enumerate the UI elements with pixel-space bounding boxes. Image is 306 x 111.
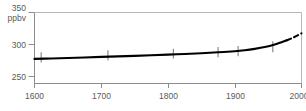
x-tick-label-1700: 1700 bbox=[92, 91, 111, 101]
data-line-projected bbox=[287, 33, 302, 40]
y-axis-ticks bbox=[29, 13, 35, 77]
y-tick-label-350: 350 bbox=[12, 3, 26, 13]
x-tick-label-1800: 1800 bbox=[159, 91, 178, 101]
data-line-observed bbox=[35, 40, 287, 59]
x-tick-label-1600: 1600 bbox=[25, 91, 44, 101]
y-tick-label-250: 250 bbox=[12, 72, 26, 82]
y-axis-unit-label: ppbv bbox=[8, 13, 27, 23]
x-axis-ticks bbox=[35, 84, 302, 89]
chart-figure: 350 ppbv 300 250 1600 1700 1800 1900 200… bbox=[0, 0, 306, 111]
y-tick-label-300: 300 bbox=[12, 40, 26, 50]
x-tick-label-2000: 2000 bbox=[290, 91, 306, 101]
x-tick-label-1900: 1900 bbox=[226, 91, 245, 101]
chart-plot-area: 350 ppbv 300 250 1600 1700 1800 1900 200… bbox=[0, 0, 306, 111]
